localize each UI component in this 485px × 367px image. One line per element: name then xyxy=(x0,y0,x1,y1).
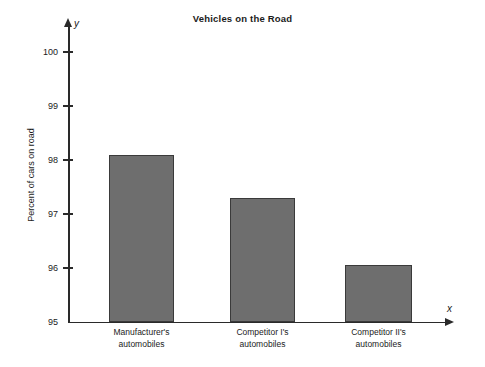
bar xyxy=(109,155,174,322)
y-axis-tick-label: 100 xyxy=(30,48,58,57)
y-axis-tick-mark xyxy=(63,51,73,52)
y-axis-tick-label: 96 xyxy=(30,264,58,273)
y-axis-title: Percent of cars on road xyxy=(26,100,36,250)
y-axis-arrow-icon xyxy=(64,18,72,27)
bar xyxy=(345,265,412,322)
bar xyxy=(230,198,295,322)
y-axis-tick-mark xyxy=(63,213,73,214)
category-label: Manufacturer'sautomobiles xyxy=(82,327,202,350)
y-axis-tick-label: 97 xyxy=(30,210,58,219)
y-axis-tick-label: 95 xyxy=(30,318,58,327)
category-label: Competitor II'sautomobiles xyxy=(319,327,439,350)
y-axis-variable-label: y xyxy=(74,18,79,29)
y-axis-tick-mark xyxy=(63,159,73,160)
y-axis-line xyxy=(68,26,70,323)
bar-chart-figure: Vehicles on the Road y x Percent of cars… xyxy=(0,0,485,367)
y-axis-tick-mark xyxy=(63,267,73,268)
y-axis-tick-mark xyxy=(63,105,73,106)
plot-area: y x Percent of cars on road 100999897969… xyxy=(0,0,485,367)
category-label-line: Competitor I's xyxy=(203,327,323,339)
category-label-line: automobiles xyxy=(203,339,323,351)
category-label-line: automobiles xyxy=(319,339,439,351)
x-axis-arrow-icon xyxy=(445,318,454,326)
y-axis-tick-label: 98 xyxy=(30,156,58,165)
category-label-line: automobiles xyxy=(82,339,202,351)
category-label-line: Manufacturer's xyxy=(82,327,202,339)
x-axis-variable-label: x xyxy=(447,303,452,314)
category-label-line: Competitor II's xyxy=(319,327,439,339)
category-label: Competitor I'sautomobiles xyxy=(203,327,323,350)
y-axis-tick-label: 99 xyxy=(30,102,58,111)
